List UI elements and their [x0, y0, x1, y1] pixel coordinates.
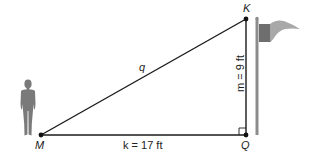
vertex-m-point	[39, 133, 44, 138]
flagpole-icon	[255, 17, 300, 135]
vertex-label-q: Q	[241, 140, 250, 151]
vertex-q-point	[244, 133, 249, 138]
person-silhouette-icon	[21, 80, 36, 136]
side-label-q: q	[139, 62, 145, 73]
triangle-diagram	[0, 0, 320, 161]
side-q-hypotenuse	[41, 19, 246, 135]
vertex-k-point	[244, 17, 249, 22]
vertex-label-k: K	[243, 3, 250, 14]
side-label-m: m = 9 ft	[235, 49, 246, 99]
vertex-label-m: M	[35, 140, 44, 151]
side-label-k: k = 17 ft	[123, 140, 162, 151]
